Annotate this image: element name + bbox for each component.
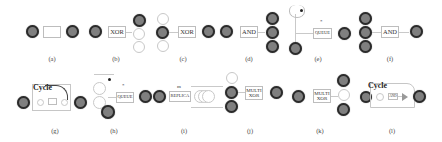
caption-g: (g) <box>51 127 59 134</box>
output-node <box>202 25 215 38</box>
connector <box>169 32 178 33</box>
branch-node <box>226 72 238 84</box>
cycle-node <box>376 93 384 101</box>
caption-a: (a) <box>48 55 55 62</box>
caption-c: (c) <box>179 55 186 62</box>
connector <box>295 33 313 34</box>
task-box <box>48 98 57 105</box>
dot-marker <box>300 9 303 12</box>
branch-node <box>337 103 350 116</box>
output-node <box>270 86 283 99</box>
marker: * <box>320 19 323 24</box>
replica-box: REPLICA <box>169 91 191 102</box>
connector <box>331 96 338 97</box>
connector <box>126 32 132 33</box>
branch-node <box>225 100 238 113</box>
branch-node <box>133 28 145 40</box>
and-box: AND <box>388 93 398 100</box>
caption-f: (f) <box>387 55 394 62</box>
multi-xor-box: MULTI XOR <box>245 86 263 100</box>
branch-node <box>156 26 169 39</box>
queue-box: QUEUE <box>313 28 332 39</box>
caption-d: (d) <box>245 55 253 62</box>
connector <box>108 97 116 98</box>
replica-node <box>202 90 215 103</box>
input-node <box>26 25 39 38</box>
branch-node <box>338 89 350 101</box>
branch-node <box>359 26 372 39</box>
connector <box>399 32 409 33</box>
output-node <box>139 90 152 103</box>
branch-node <box>266 40 279 53</box>
task-box <box>43 26 61 38</box>
cycle-label: Cycle <box>368 81 387 90</box>
connector <box>94 74 114 75</box>
triangle-icon <box>402 93 408 101</box>
connector <box>295 14 296 42</box>
caption-j: (j) <box>247 127 253 134</box>
branch-node <box>337 74 350 87</box>
output-node <box>66 25 79 38</box>
branch-node <box>359 40 372 53</box>
xor-box: XOR <box>178 26 196 38</box>
branch-node <box>157 13 169 25</box>
branch-node <box>266 12 279 25</box>
input-node <box>292 90 305 103</box>
marker: m <box>177 84 181 89</box>
connector <box>372 32 381 33</box>
connector <box>258 32 265 33</box>
caption-h: (h) <box>110 127 118 134</box>
multi-xor-box: MULTI XOR <box>313 89 331 103</box>
cycle-node <box>37 99 44 106</box>
dot-marker <box>108 78 111 81</box>
output-node <box>410 25 423 38</box>
branch-node <box>266 26 279 39</box>
caption-i: (i) <box>181 127 187 134</box>
branch-node <box>133 14 146 27</box>
marker: * <box>122 83 125 88</box>
branch-node <box>101 105 115 119</box>
connector <box>238 92 245 93</box>
and-box: AND <box>240 26 258 38</box>
branch-node <box>225 86 238 99</box>
input-node <box>153 90 166 103</box>
output-node <box>74 96 87 109</box>
input-node <box>89 25 102 38</box>
xor-box: XOR <box>108 26 126 38</box>
connector <box>191 86 223 87</box>
output-node <box>413 90 426 103</box>
connector <box>191 107 223 108</box>
branch-node <box>359 12 372 25</box>
input-node <box>17 96 30 109</box>
and-box: AND <box>381 26 399 38</box>
cycle-node <box>61 99 68 106</box>
input-node <box>220 25 233 38</box>
input-node <box>289 42 302 55</box>
caption-e: (e) <box>314 55 321 62</box>
caption-k: (k) <box>316 127 324 134</box>
branch-node <box>157 40 169 52</box>
output-node <box>338 27 351 40</box>
caption-l: (l) <box>389 127 395 134</box>
branch-node <box>133 41 145 53</box>
branch-node <box>93 82 106 95</box>
caption-b: (b) <box>112 55 120 62</box>
queue-box: QUEUE <box>116 92 134 103</box>
